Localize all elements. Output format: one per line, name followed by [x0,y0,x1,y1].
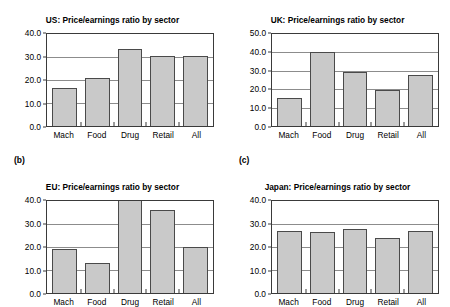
bar-mach [277,98,302,126]
y-axis-tick-mark [43,294,46,295]
x-axis-label: Retail [372,130,405,140]
panel-label-japan: (c) [239,155,249,165]
y-axis-tick-mark [268,247,271,248]
y-axis-tick-label: 30.0 [250,66,266,76]
y-axis-tick-label: 0.0 [254,289,266,299]
bar-food [310,232,335,293]
bar-food [310,52,335,126]
bar-group [47,201,213,293]
plot-area-uk [271,33,439,127]
bar-slot [81,34,114,126]
y-axis-tick-mark [268,223,271,224]
chart-panel-japan: (c) Japan: Price/earnings ratio by secto… [225,152,450,304]
bar-mach [52,88,77,126]
y-axis-tick-label: 0.0 [29,289,41,299]
y-axis-tick-label: 10.0 [25,266,41,276]
y-axis-tick-mark [268,270,271,271]
y-axis-tick-label: 20.0 [25,242,41,252]
bar-slot [339,201,372,293]
bar-slot [371,201,404,293]
y-axis-tick-mark [268,89,271,90]
bar-all [408,231,433,293]
y-axis-tick-label: 0.0 [254,122,266,132]
bar-slot [339,34,372,126]
bar-food [85,78,110,126]
y-axis-tick-mark [268,200,271,201]
y-axis-tick-label: 30.0 [25,52,41,62]
bar-slot [273,201,306,293]
chart-title-eu: EU: Price/earnings ratio by sector [0,182,225,192]
y-axis-tick-mark [268,33,271,34]
y-axis-tick-label: 10.0 [250,266,266,276]
x-axis-label: Food [80,130,113,140]
y-axis-tick-label: 30.0 [250,219,266,229]
x-axis-label: All [405,297,438,307]
chart-title-uk: UK: Price/earnings ratio by sector [225,15,450,25]
bar-slot [81,201,114,293]
x-axis-labels-uk: MachFoodDrugRetailAll [271,130,439,140]
x-axis-labels-us: MachFoodDrugRetailAll [46,130,214,140]
y-axis-tick-label: 40.0 [25,195,41,205]
y-axis-tick-label: 30.0 [25,219,41,229]
plot-wrap-us: MachFoodDrugRetailAll 0.010.020.030.040.… [46,33,214,127]
y-axis-tick-mark [43,200,46,201]
y-axis-tick-mark [268,127,271,128]
x-axis-label: Food [305,297,338,307]
bar-retail [150,210,175,293]
x-axis-labels-eu: MachFoodDrugRetailAll [46,297,214,307]
x-axis-label: Retail [147,297,180,307]
panel-label-eu: (b) [14,155,25,165]
bar-group [272,201,438,293]
x-axis-label: Mach [47,130,80,140]
bar-drug [118,49,143,126]
y-axis-tick-mark [43,80,46,81]
y-axis-tick-mark [268,108,271,109]
x-axis-label: Drug [113,297,146,307]
chart-panel-uk: UK: Price/earnings ratio by sector MachF… [225,0,450,152]
x-axis-label: Drug [338,130,371,140]
bar-group [272,34,438,126]
y-axis-tick-mark [268,51,271,52]
chart-panel-eu: (b) EU: Price/earnings ratio by sector M… [0,152,225,304]
y-axis-tick-mark [43,270,46,271]
y-axis-tick-mark [43,223,46,224]
plot-area-us [46,33,214,127]
y-axis-tick-mark [43,56,46,57]
bar-slot [179,34,212,126]
bar-slot [114,201,147,293]
plot-area-eu [46,200,214,294]
y-axis-tick-mark [268,70,271,71]
x-axis-label: Drug [113,130,146,140]
bar-retail [150,56,175,126]
y-axis-tick-mark [43,103,46,104]
bar-group [47,34,213,126]
plot-area-japan [271,200,439,294]
y-axis-tick-label: 10.0 [250,103,266,113]
x-axis-label: All [405,130,438,140]
bar-all [183,247,208,293]
x-axis-label: All [180,130,213,140]
x-axis-label: Retail [147,130,180,140]
y-axis-tick-label: 20.0 [250,84,266,94]
bar-mach [52,249,77,293]
y-axis-tick-label: 20.0 [250,242,266,252]
bar-retail [375,238,400,293]
x-axis-label: Mach [272,130,305,140]
bar-food [85,263,110,293]
bar-drug [343,229,368,293]
chart-title-japan: Japan: Price/earnings ratio by sector [225,182,450,192]
x-axis-label: Mach [47,297,80,307]
plot-wrap-uk: MachFoodDrugRetailAll 0.010.020.030.040.… [271,33,439,127]
x-axis-label: Food [80,297,113,307]
y-axis-tick-mark [268,294,271,295]
chart-title-us: US: Price/earnings ratio by sector [0,15,225,25]
y-axis-tick-label: 50.0 [250,28,266,38]
bar-slot [114,34,147,126]
bar-slot [48,34,81,126]
bar-slot [306,34,339,126]
x-axis-label: All [180,297,213,307]
plot-wrap-japan: MachFoodDrugRetailAll 0.010.020.030.040.… [271,200,439,294]
x-axis-labels-japan: MachFoodDrugRetailAll [271,297,439,307]
bar-slot [404,34,437,126]
